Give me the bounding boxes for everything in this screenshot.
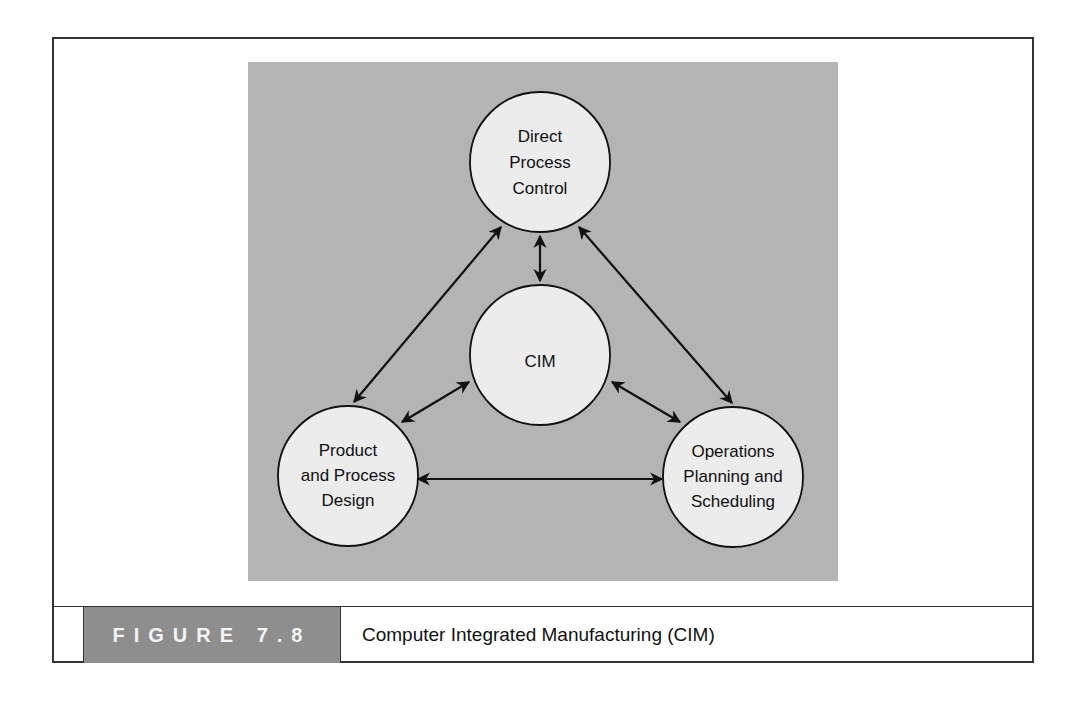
edge-cim-ppd bbox=[402, 382, 469, 422]
node-label-line: Control bbox=[513, 179, 568, 198]
cim-diagram: Direct Process Control CIM Product and P… bbox=[0, 0, 1082, 705]
node-cim: CIM bbox=[470, 285, 610, 425]
node-product-process-design: Product and Process Design bbox=[278, 406, 418, 546]
node-operations-planning-scheduling: Operations Planning and Scheduling bbox=[663, 407, 803, 547]
node-direct-process-control: Direct Process Control bbox=[470, 92, 610, 232]
node-label-line: and Process bbox=[301, 466, 396, 485]
edge-cim-ops bbox=[612, 382, 680, 422]
node-label-line: Direct bbox=[518, 127, 563, 146]
node-label-line: Design bbox=[322, 491, 375, 510]
node-label-line: CIM bbox=[524, 352, 555, 371]
node-label-line: Process bbox=[509, 153, 570, 172]
figure-title: Computer Integrated Manufacturing (CIM) bbox=[362, 607, 715, 663]
figure-caption: FIGURE 7.8 Computer Integrated Manufactu… bbox=[52, 606, 1034, 663]
node-label-line: Product bbox=[319, 441, 378, 460]
node-label-line: Scheduling bbox=[691, 492, 775, 511]
node-label-line: Planning and bbox=[683, 467, 782, 486]
figure-number-label: FIGURE 7.8 bbox=[83, 607, 341, 663]
node-label-line: Operations bbox=[691, 442, 774, 461]
